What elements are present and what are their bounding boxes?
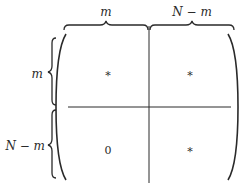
- cell-bottom-left: 0: [105, 144, 112, 157]
- cell-bottom-right: *: [187, 145, 193, 158]
- block-matrix-diagram: m N − m m N − m * * 0 *: [0, 0, 242, 183]
- cell-top-left: *: [105, 69, 111, 82]
- row-label-n-minus-m: N − m: [4, 139, 45, 153]
- column-label-m: m: [100, 5, 111, 19]
- row-brace-m: [48, 38, 56, 105]
- cell-top-right: *: [187, 69, 193, 82]
- column-brace-n-minus-m: [150, 21, 234, 30]
- row-brace-n-minus-m: [48, 110, 56, 178]
- column-label-n-minus-m: N − m: [171, 5, 212, 19]
- row-label-m: m: [32, 67, 43, 81]
- left-parenthesis: [56, 34, 66, 180]
- column-brace-m: [64, 21, 148, 30]
